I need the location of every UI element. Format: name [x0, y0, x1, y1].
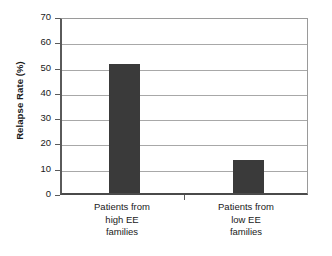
x-axis-label-line: families: [60, 226, 184, 239]
y-axis-tick-label: 30: [40, 112, 51, 123]
x-axis-label-line: high EE: [60, 214, 184, 227]
y-axis-tick-label: 70: [40, 11, 51, 22]
y-axis-tick-label: 50: [40, 62, 51, 73]
x-axis-center-tick: [184, 195, 185, 200]
y-axis-tick-label: 60: [40, 36, 51, 47]
y-axis-tick-mark: [55, 195, 60, 196]
bar-series: [62, 19, 307, 193]
x-axis-label-line: Patients from: [184, 201, 308, 214]
plot-area: [60, 18, 308, 195]
y-axis-tick-label: 0: [46, 188, 51, 199]
x-axis-category-label: Patients fromhigh EEfamilies: [60, 201, 184, 239]
x-axis-category-label: Patients fromlow EEfamilies: [184, 201, 308, 239]
y-axis-ticks: 010203040506070: [0, 18, 60, 195]
x-axis-labels: Patients fromhigh EEfamiliesPatients fro…: [60, 201, 308, 253]
y-axis-tick-label: 20: [40, 137, 51, 148]
x-axis-label-line: families: [184, 226, 308, 239]
bar: [109, 64, 140, 193]
x-axis-label-line: Patients from: [60, 201, 184, 214]
x-axis-label-line: low EE: [184, 214, 308, 227]
bar: [233, 160, 264, 193]
y-axis-tick-label: 40: [40, 87, 51, 98]
bar-chart-figure: Relapse Rate (%) 010203040506070 Patient…: [0, 0, 332, 256]
y-axis-tick-label: 10: [40, 163, 51, 174]
